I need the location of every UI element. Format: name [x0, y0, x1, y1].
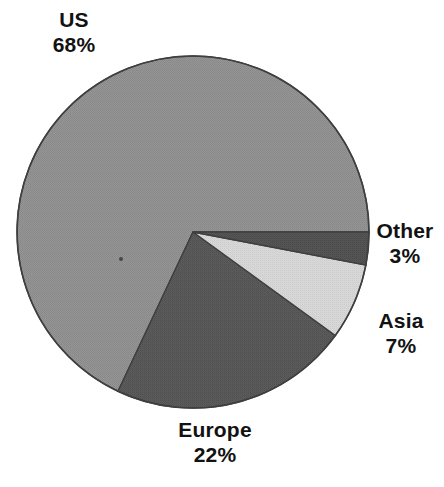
- slice-label-asia-value: 7%: [360, 334, 442, 359]
- slice-label-europe-value: 22%: [137, 443, 293, 468]
- slice-label-other-name: Other: [366, 219, 444, 244]
- slice-label-us: US 68%: [14, 8, 134, 58]
- slice-label-us-name: US: [14, 8, 134, 33]
- slice-label-europe: Europe 22%: [137, 418, 293, 468]
- pie-chart-figure: US 68% Other 3% Asia 7% Europe 22%: [0, 0, 444, 487]
- pie-slices: [17, 56, 369, 408]
- slice-label-europe-name: Europe: [137, 418, 293, 443]
- slice-label-us-value: 68%: [14, 33, 134, 58]
- scan-artifact-speck: [119, 257, 123, 261]
- slice-label-other-value: 3%: [366, 244, 444, 269]
- slice-label-other: Other 3%: [366, 219, 444, 269]
- slice-label-asia: Asia 7%: [360, 309, 442, 359]
- slice-label-asia-name: Asia: [360, 309, 442, 334]
